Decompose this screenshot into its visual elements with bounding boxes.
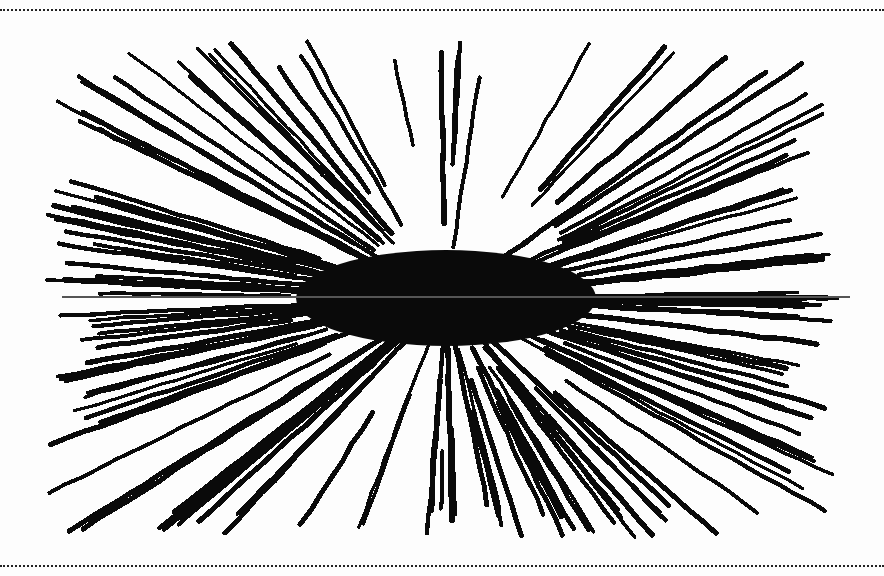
ray-line — [441, 451, 443, 508]
ray-line — [503, 44, 589, 197]
ray-line — [448, 346, 453, 520]
ray-line — [503, 153, 807, 275]
ray-line — [99, 293, 289, 296]
starburst-lines — [0, 0, 884, 576]
ray-line — [441, 53, 444, 224]
starburst-figure — [0, 0, 884, 576]
bottom-dotted-rule — [0, 565, 884, 567]
ray-line — [300, 412, 373, 524]
ray-line — [395, 61, 413, 146]
